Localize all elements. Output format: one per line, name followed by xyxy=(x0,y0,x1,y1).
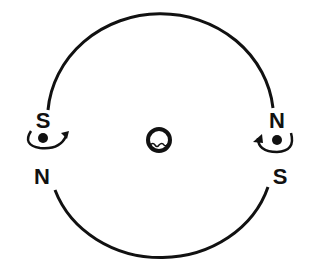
right-arrowhead-icon xyxy=(253,134,263,143)
orbit-lower-arc xyxy=(55,187,268,258)
right-top-pole-label: N xyxy=(269,108,285,133)
orbit-diagram: S N N S xyxy=(0,0,321,276)
right-magnet-dot-icon xyxy=(272,135,282,145)
right-magnet: N S xyxy=(253,108,292,189)
left-magnet: S N xyxy=(28,108,69,189)
left-magnet-dot-icon xyxy=(38,133,48,143)
left-top-pole-label: S xyxy=(36,108,51,133)
orbit-upper-arc xyxy=(48,14,273,110)
center-body-icon xyxy=(148,129,170,151)
right-bottom-pole-label: S xyxy=(273,164,288,189)
left-bottom-pole-label: N xyxy=(34,164,50,189)
